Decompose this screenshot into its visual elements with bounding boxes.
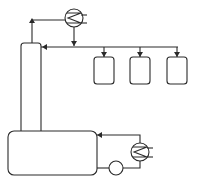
- receiver-tank-1: [94, 57, 114, 84]
- condensate-line: [71, 27, 77, 46]
- distillate-header: [41, 44, 178, 50]
- receiver-tank-3: [167, 57, 187, 84]
- distillation-column: [21, 43, 41, 132]
- reboiler-return-line: [97, 132, 140, 143]
- reboiler-vessel: [8, 131, 97, 175]
- reboiler-heat-exchanger-icon: [131, 143, 153, 161]
- condenser-heat-exchanger-icon: [65, 9, 87, 27]
- overhead-line: [29, 18, 65, 43]
- receiver-tank-2: [130, 57, 150, 84]
- process-diagram: [0, 0, 197, 185]
- pump-icon: [109, 161, 123, 175]
- receiver-feed-lines: [101, 47, 180, 57]
